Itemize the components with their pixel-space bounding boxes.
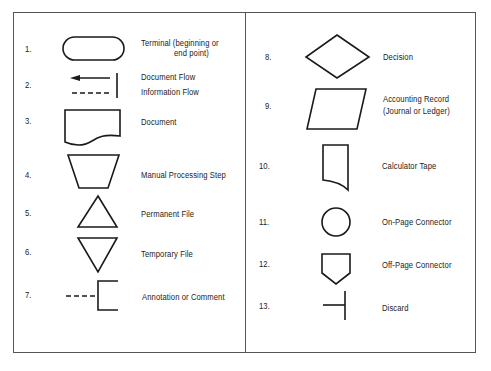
item-number: 13. — [259, 301, 270, 312]
off-page-connector-symbol-icon — [322, 254, 350, 284]
annotation-symbol-icon — [66, 281, 118, 310]
discard-symbol-icon — [323, 291, 345, 320]
symbol-label: Off-Page Connector — [382, 260, 452, 271]
accounting-record-symbol-icon — [307, 89, 366, 129]
manual-processing-symbol-icon — [68, 155, 119, 188]
item-number: 2. — [25, 80, 32, 91]
item-number: 11. — [259, 217, 269, 228]
symbols-canvas — [0, 0, 491, 371]
symbol-label: On-Page Connector — [382, 217, 452, 228]
document-symbol-icon — [65, 110, 120, 145]
symbol-label: Temporary File — [141, 249, 193, 260]
symbol-label: Calculator Tape — [382, 161, 436, 172]
item-number: 3. — [25, 116, 32, 127]
item-number: 6. — [25, 247, 32, 258]
symbol-label-line2: Information Flow — [141, 87, 199, 98]
symbol-label-line2: (Journal or Ledger) — [383, 106, 450, 117]
permanent-file-symbol-icon — [78, 196, 117, 227]
symbol-label: Discard — [382, 303, 409, 314]
symbol-label: Manual Processing Step — [141, 170, 226, 181]
item-number: 5. — [25, 208, 32, 219]
symbol-label-line2: end point) — [174, 48, 209, 59]
terminal-symbol-icon — [63, 37, 124, 60]
temporary-file-symbol-icon — [78, 238, 117, 272]
symbol-label: Accounting Record — [383, 94, 449, 105]
symbol-label: Permanent File — [141, 209, 194, 220]
flow-lines-symbol-icon — [70, 73, 117, 98]
item-number: 1. — [25, 44, 32, 55]
decision-symbol-icon — [306, 35, 369, 78]
item-number: 8. — [265, 52, 272, 63]
symbol-label: Annotation or Comment — [142, 292, 225, 303]
item-number: 9. — [265, 101, 272, 112]
on-page-connector-symbol-icon — [322, 208, 350, 236]
item-number: 7. — [25, 290, 32, 301]
item-number: 4. — [25, 170, 32, 181]
symbol-label: Document — [141, 117, 177, 128]
symbol-label: Document Flow — [141, 72, 195, 83]
item-number: 12. — [259, 259, 270, 270]
item-number: 10. — [259, 161, 270, 172]
calculator-tape-symbol-icon — [323, 145, 348, 190]
symbol-label: Decision — [383, 52, 413, 63]
